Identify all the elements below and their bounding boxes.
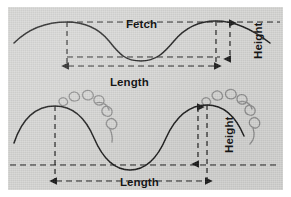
lower-wave-group: [10, 89, 280, 182]
whitecap-curls-left: [59, 90, 117, 142]
diagram-panel: Fetch Length Height Length Height: [8, 7, 283, 190]
label-length-upper: Length: [110, 77, 149, 89]
label-height-lower: Height: [224, 117, 236, 153]
label-length-lower: Length: [120, 177, 159, 189]
label-fetch: Fetch: [126, 19, 157, 31]
diagram-artwork: [8, 7, 283, 190]
wave-diagram-figure: Fetch Length Height Length Height: [0, 0, 291, 197]
lower-wave-curve: [14, 105, 244, 170]
label-height-upper: Height: [253, 23, 265, 59]
